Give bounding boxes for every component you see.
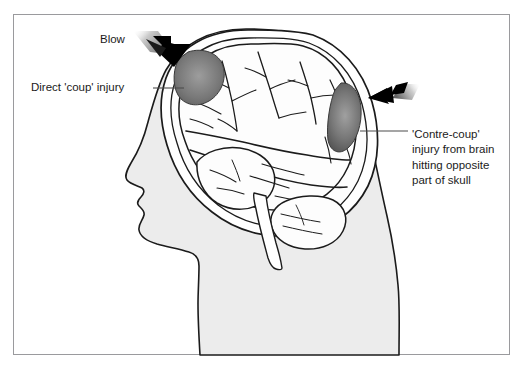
- contrecoup-arrow[interactable]: [368, 82, 420, 104]
- label-direct-coup-injury: Direct 'coup' injury: [31, 80, 124, 95]
- label-blow: Blow: [100, 32, 125, 47]
- label-contre-coup-line-1: 'Contre-coup': [412, 127, 512, 142]
- label-contre-coup-line-2: injury from brain: [412, 142, 512, 157]
- figure-root: Blow Direct 'coup' injury 'Contre-coup' …: [0, 0, 531, 371]
- cerebellum: [271, 196, 346, 249]
- label-contre-coup-injury: 'Contre-coup' injury from brain hitting …: [412, 127, 512, 188]
- label-contre-coup-line-3: hitting opposite: [412, 158, 512, 173]
- label-contre-coup-line-4: part of skull: [412, 173, 512, 188]
